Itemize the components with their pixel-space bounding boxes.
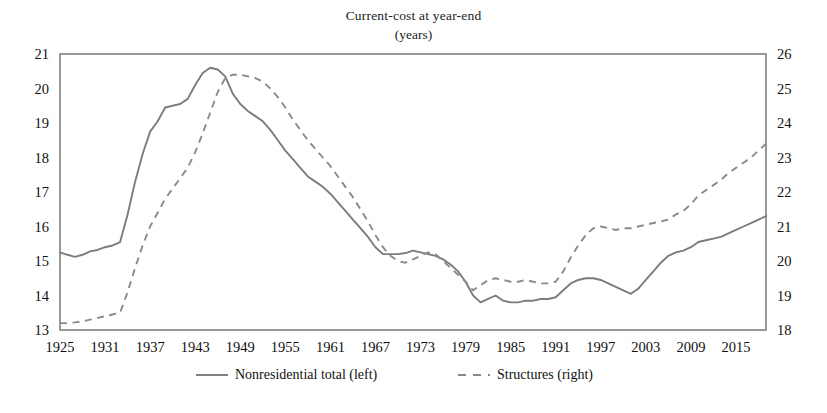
axis-tick-label: 15 (35, 253, 50, 269)
axis-tick-label: 23 (777, 150, 792, 166)
y-axis-right-labels: 181920212223242526 (777, 46, 792, 338)
axis-tick-label: 21 (35, 46, 50, 62)
axis-tick-label: 1967 (361, 339, 390, 355)
axis-tick-label: 1955 (271, 339, 300, 355)
axis-tick-label: 2015 (721, 339, 750, 355)
axis-tick-label: 17 (35, 184, 50, 200)
axis-tick-label: 20 (777, 253, 792, 269)
axis-tick-label: 1973 (406, 339, 435, 355)
series-line-nonresidential-total (60, 68, 766, 303)
axis-tick-label: 24 (777, 115, 792, 131)
axis-tick-label: 18 (777, 322, 792, 338)
axis-tick-label: 14 (35, 288, 50, 304)
axis-tick-label: 25 (777, 81, 792, 97)
axis-tick-label: 16 (35, 219, 50, 235)
legend-label: Structures (right) (497, 367, 593, 383)
axis-tick-label: 22 (777, 184, 792, 200)
axis-tick-label: 20 (35, 81, 50, 97)
axis-tick-label: 1925 (46, 339, 75, 355)
axis-tick-label: 2003 (631, 339, 660, 355)
axis-tick-label: 13 (35, 322, 50, 338)
axis-tick-label: 1979 (451, 339, 480, 355)
axis-tick-label: 19 (777, 288, 792, 304)
axis-tick-label: 1961 (316, 339, 345, 355)
axis-tick-label: 1931 (91, 339, 120, 355)
axis-tick-label: 18 (35, 150, 50, 166)
axis-tick-label: 1991 (541, 339, 570, 355)
chart-legend: Nonresidential total (left)Structures (r… (196, 367, 593, 383)
series-line-structures (60, 75, 766, 323)
axis-tick-label: 1943 (181, 339, 210, 355)
x-axis-labels: 1925193119371943194919551961196719731979… (46, 339, 751, 355)
axis-tick-label: 1997 (586, 339, 615, 355)
chart-container: Current-cost at year-end (years) 1314151… (0, 0, 827, 413)
axis-tick-label: 2009 (676, 339, 705, 355)
axis-tick-label: 1949 (226, 339, 255, 355)
axis-tick-label: 19 (35, 115, 50, 131)
y-axis-left-labels: 131415161718192021 (35, 46, 50, 338)
chart-svg: 131415161718192021 181920212223242526 19… (0, 0, 827, 413)
axis-tick-label: 26 (777, 46, 792, 62)
axis-tick-label: 21 (777, 219, 792, 235)
axis-tick-label: 1985 (496, 339, 525, 355)
legend-item[interactable]: Structures (right) (458, 367, 593, 383)
plot-frame (60, 54, 766, 330)
legend-item[interactable]: Nonresidential total (left) (196, 367, 378, 383)
legend-label: Nonresidential total (left) (235, 367, 378, 383)
axis-tick-label: 1937 (136, 339, 165, 355)
